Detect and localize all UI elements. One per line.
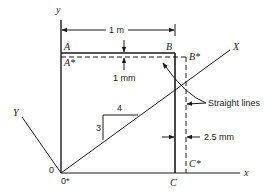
point-c-label: C <box>170 177 177 188</box>
point-c-star-label: C* <box>189 158 201 169</box>
point-b-star-label: B* <box>189 51 200 62</box>
rotated-x-label: X <box>232 41 240 52</box>
point-a-label: A <box>63 41 71 52</box>
dim-1m-label: 1 m <box>109 25 124 35</box>
origin-deformed-label: 0* <box>61 176 70 186</box>
rotated-y-axis <box>22 117 61 173</box>
straight-lines-annotation: Straight lines <box>208 98 261 108</box>
slope-rise-label: 3 <box>96 123 101 133</box>
y-axis-label: y <box>55 4 61 15</box>
x-axis-label: x <box>243 167 249 178</box>
slope-run-label: 4 <box>117 103 122 113</box>
origin-label: 0 <box>49 165 54 175</box>
dim-1mm-label: 1 mm <box>113 73 136 83</box>
leader-straight-lines-side <box>187 103 206 104</box>
point-b-label: B <box>166 41 172 52</box>
strain-diagram: y x X Y 0 0* A A* B B* C C* 1 m 1 mm 2.5… <box>0 0 274 194</box>
rotated-x-axis <box>61 50 230 173</box>
slope-triangle <box>103 115 138 140</box>
dim-2p5mm-label: 2.5 mm <box>204 132 234 142</box>
rotated-y-label: Y <box>13 107 20 118</box>
point-a-star-label: A* <box>63 57 75 68</box>
